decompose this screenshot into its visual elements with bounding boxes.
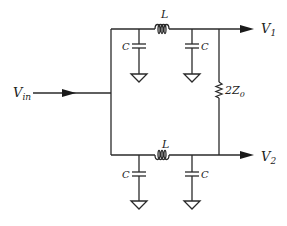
inductor-bottom [155,151,169,160]
resistor-label: 2Z0 [224,84,245,99]
capacitor-bottom-left [131,155,147,209]
resistor [216,29,222,155]
inductor-top-label: L [160,8,168,21]
output-v1-label: V1 [261,21,276,38]
input-label: Vin [13,85,31,102]
ground-icon [184,201,200,209]
top-branch [111,25,254,83]
cap-top-left-label: C [122,41,130,52]
inductor-top [155,25,169,34]
arrow-v1 [240,25,254,33]
cap-bottom-right-label: C [201,169,209,180]
ground-icon [131,74,147,82]
capacitor-top-right [184,29,200,82]
cap-bottom-left-label: C [122,169,130,180]
circuit-diagram: Vin L C C V1 2Z0 [0,0,287,226]
capacitor-bottom-right [184,155,200,209]
ground-icon [131,201,147,209]
bottom-branch [111,151,254,210]
output-v2-label: V2 [261,149,276,166]
arrow-v2 [240,151,254,159]
capacitor-top-left [131,29,147,82]
ground-icon [184,74,200,82]
cap-top-right-label: C [201,41,209,52]
inductor-bottom-label: L [161,138,169,151]
input-wire [33,89,111,97]
